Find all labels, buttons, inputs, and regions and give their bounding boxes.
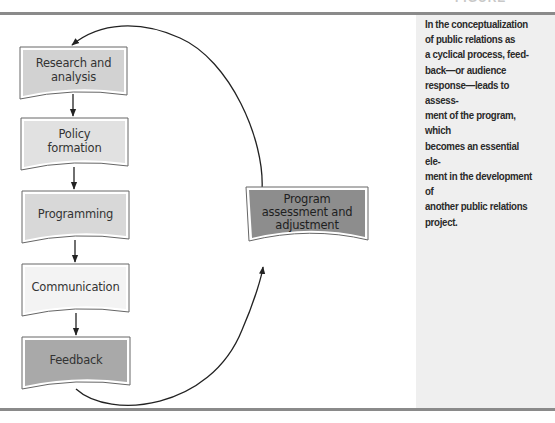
node-assessment-label: Program assessment and adjustment — [249, 190, 365, 234]
node-programming-label: Programming — [25, 194, 126, 234]
bottom-rule — [0, 408, 555, 411]
node-research-label: Research and analysis — [23, 50, 124, 90]
node-policy-label: Policy formation — [24, 121, 125, 161]
node-feedback-label: Feedback — [25, 340, 127, 380]
node-communication-label: Communication — [25, 267, 126, 307]
